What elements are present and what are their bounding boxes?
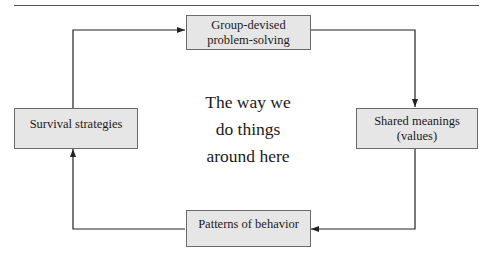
center-label-line: around here xyxy=(168,143,328,170)
node-shared-meanings: Shared meanings (values) xyxy=(356,108,478,149)
node-label: problem-solving xyxy=(207,33,290,48)
center-label-line: The way we xyxy=(168,89,328,116)
node-group-devised-problem-solving: Group-devised problem-solving xyxy=(186,15,311,50)
node-patterns-of-behavior: Patterns of behavior xyxy=(186,210,311,247)
node-label: Group-devised xyxy=(211,18,285,33)
center-label: The way we do things around here xyxy=(168,89,328,170)
center-label-line: do things xyxy=(168,116,328,143)
node-survival-strategies: Survival strategies xyxy=(14,108,138,149)
node-label: (values) xyxy=(397,129,437,144)
node-label: Survival strategies xyxy=(30,117,123,132)
node-label: Patterns of behavior xyxy=(198,217,299,232)
node-label: Shared meanings xyxy=(374,114,460,129)
